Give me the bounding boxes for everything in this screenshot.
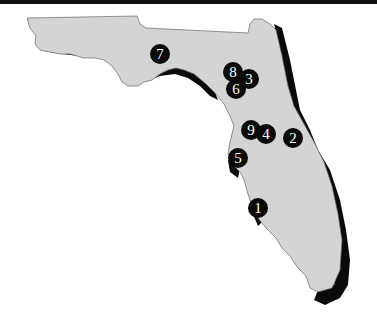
map-marker-1[interactable]: 1 (248, 198, 268, 218)
marker-label: 5 (234, 150, 242, 166)
marker-label: 6 (232, 81, 240, 97)
map-marker-6[interactable]: 6 (226, 79, 246, 99)
land-mass (27, 16, 342, 292)
marker-label: 2 (289, 130, 297, 146)
map-marker-5[interactable]: 5 (228, 148, 248, 168)
map-marker-2[interactable]: 2 (283, 128, 303, 148)
florida-outline (0, 0, 377, 315)
marker-label: 3 (245, 71, 253, 87)
map-marker-7[interactable]: 7 (150, 44, 170, 64)
marker-label: 1 (254, 200, 262, 216)
marker-label: 8 (229, 64, 237, 80)
map-marker-9[interactable]: 9 (241, 120, 261, 140)
marker-label: 9 (247, 122, 255, 138)
florida-map: 1 2 3 4 5 6 7 8 9 (0, 0, 377, 315)
map-marker-8[interactable]: 8 (223, 62, 243, 82)
marker-label: 4 (262, 126, 270, 142)
marker-label: 7 (156, 46, 164, 62)
